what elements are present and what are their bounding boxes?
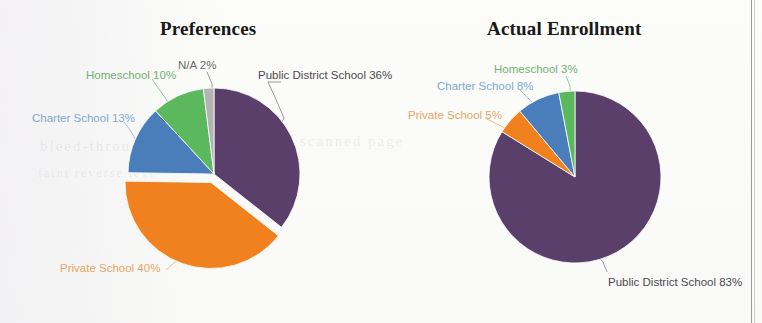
pie-charts-canvas — [0, 0, 762, 323]
slice-label-na-preferences: N/A 2% — [178, 60, 216, 72]
figure-page: bleed-through scanned page faint reverse… — [0, 0, 762, 323]
slice-label-homeschool-preferences: Homeschool 10% — [86, 70, 176, 82]
slice-label-charter-preferences: Charter School 13% — [32, 113, 135, 125]
slice-label-public-district-actual: Public District School 83% — [608, 277, 742, 289]
page-edge-rule — [751, 0, 752, 323]
page-edge-shadow — [754, 0, 755, 323]
slice-label-charter-actual: Charter School 8% — [437, 81, 534, 93]
pie-slices-preferences — [125, 88, 300, 268]
pie-slices-actual-enrollment — [489, 91, 661, 263]
slice-label-homeschool-actual: Homeschool 3% — [494, 64, 578, 76]
slice-label-private-preferences: Private School 40% — [60, 263, 160, 275]
slice-label-private-actual: Private School 5% — [408, 110, 502, 122]
slice-label-public-district-preferences: Public District School 36% — [258, 70, 392, 82]
